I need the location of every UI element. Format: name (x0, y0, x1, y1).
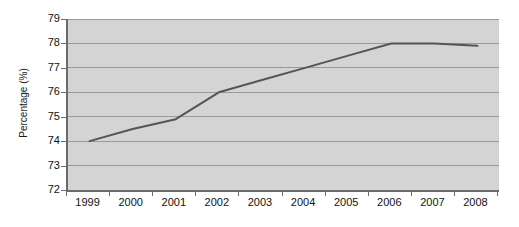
x-tick-label: 2003 (240, 196, 280, 209)
y-tick-label: 72 (38, 184, 60, 195)
data-series-line (68, 19, 499, 190)
plot-area (66, 19, 499, 192)
y-tick-label: 74 (38, 135, 60, 146)
x-tick-label: 2005 (326, 196, 366, 209)
x-tick-label: 2004 (283, 196, 323, 209)
y-axis-title-label: Percentage (%) (18, 68, 29, 137)
x-tick-label: 2002 (197, 196, 237, 209)
x-tick-label: 2006 (369, 196, 409, 209)
y-tick-label: 77 (38, 62, 60, 73)
y-axis-title: Percentage (%) (16, 40, 30, 165)
y-axis-tick-labels: 7978777675747372 (36, 0, 60, 227)
y-tick-label: 75 (38, 111, 60, 122)
x-tick-label: 2000 (111, 196, 151, 209)
y-tick-label: 76 (38, 86, 60, 97)
x-tick-mark (497, 192, 498, 196)
x-axis-tick-labels: 1999200020012002200320042005200620072008 (66, 196, 497, 212)
y-tick-label: 78 (38, 37, 60, 48)
x-tick-label: 2007 (412, 196, 452, 209)
x-tick-label: 1999 (68, 196, 108, 209)
line-chart: Percentage (%) 7978777675747372 19992000… (0, 0, 519, 227)
x-tick-label: 2008 (455, 196, 495, 209)
y-tick-label: 73 (38, 160, 60, 171)
x-tick-label: 2001 (154, 196, 194, 209)
y-tick-label: 79 (38, 13, 60, 24)
